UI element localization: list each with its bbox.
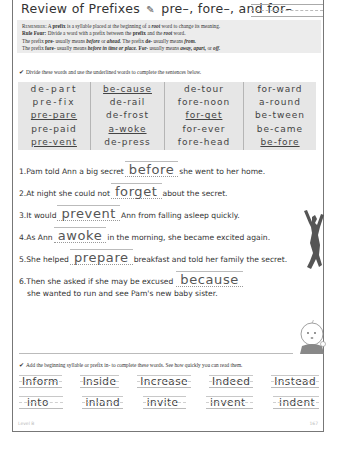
rules-box: Remember: A prefix is a syllable placed …	[17, 20, 321, 53]
table-word-underlined: a-woke	[108, 124, 146, 135]
sentence-6-continuation: she wanted to run and see Pam's new baby…	[19, 287, 319, 299]
in-words-row-2: into inland invite invent indent	[19, 395, 319, 415]
in-word[interactable]: Indeed	[209, 374, 253, 391]
in-word[interactable]: Inform	[19, 374, 62, 391]
table-word-underlined: be-fore	[260, 137, 299, 148]
table-word: de-frost	[106, 110, 149, 121]
table-word: de-press	[104, 137, 151, 148]
word-column-1: de-part pre-fix pre-pare pre-paid pre-ve…	[18, 82, 91, 150]
in-word[interactable]: inland	[82, 395, 123, 412]
check-icon: ✔	[19, 69, 24, 75]
title-row: Review of Prefixes ✎ pre–, fore–, and fo…	[21, 1, 321, 19]
table-word-underlined: pre-pare	[31, 110, 77, 121]
table-word: de-rail	[110, 97, 146, 108]
answer-blank[interactable]: because	[176, 274, 243, 287]
table-word: fore-head	[178, 137, 230, 148]
rule-four: Rule Four: Divide a word with a prefix b…	[22, 30, 316, 37]
table-word-underlined: for-get	[186, 110, 223, 121]
in-prefix-words: Inform Inside Increase Indeed Instead in…	[19, 374, 319, 416]
word-column-2: be-cause de-rail de-frost a-woke de-pres…	[91, 82, 165, 150]
page-number: 167	[309, 421, 318, 426]
table-word-underlined: pre-vent	[31, 137, 77, 148]
in-words-row-1: Inform Inside Increase Indeed Instead	[19, 374, 319, 394]
check-icon: ✔	[19, 362, 24, 368]
name-writing-lines[interactable]	[251, 4, 323, 17]
answer-blank[interactable]: before	[125, 164, 178, 177]
sentence-2: 2. At night she could not forget about t…	[19, 177, 319, 199]
table-word: fore-noon	[178, 97, 230, 108]
baby-icon	[297, 320, 327, 356]
in-word[interactable]: Instead	[271, 374, 319, 391]
table-word: pre-fix	[33, 97, 76, 108]
sentences-section: 1. Pam told Ann a big secret before she …	[19, 155, 319, 299]
answer-blank[interactable]: awoke	[54, 230, 107, 243]
word-column-4: for-ward a-round be-tween be-came be-for…	[244, 82, 316, 150]
level-label: Level B	[18, 421, 34, 426]
rule-fore-for: The prefix fore- usually means before in…	[22, 45, 316, 52]
table-word: be-tween	[255, 110, 305, 121]
in-word[interactable]: indent	[273, 395, 319, 412]
in-word[interactable]: Inside	[80, 374, 120, 391]
sentence-4: 4. As Ann awoke in the morning, she beca…	[19, 221, 319, 243]
in-word[interactable]: into	[19, 395, 63, 412]
in-word[interactable]: invite	[143, 395, 187, 412]
in-word[interactable]: Increase	[137, 374, 191, 391]
section-divider	[19, 353, 293, 354]
table-word: de-tour	[184, 84, 224, 95]
table-word: de-part	[31, 84, 78, 95]
word-column-3: de-tour fore-noon for-get for-ever fore-…	[165, 82, 244, 150]
table-word: pre-paid	[31, 124, 76, 135]
pencil-icon: ✎	[146, 4, 155, 15]
sentence-5: 5. She helped prepare breakfast and told…	[19, 243, 319, 265]
title-text: Review of Prefixes	[21, 1, 140, 16]
worksheet-page: Review of Prefixes ✎ pre–, fore–, and fo…	[12, 0, 324, 432]
table-word: for-ward	[257, 84, 302, 95]
jumping-girl-icon	[302, 209, 326, 275]
word-division-table: de-part pre-fix pre-pare pre-paid pre-ve…	[18, 82, 316, 150]
table-word: a-round	[259, 97, 301, 108]
answer-blank[interactable]: forget	[111, 186, 162, 199]
answer-blank[interactable]: prepare	[70, 252, 133, 265]
rule-remember: Remember: A prefix is a syllable placed …	[22, 23, 316, 30]
sentence-3: 3. It would prevent Ann from falling asl…	[19, 199, 319, 221]
sentence-6: 6. Then she asked if she may be excused …	[19, 265, 319, 287]
answer-blank[interactable]: prevent	[57, 208, 120, 221]
table-word-underlined: be-cause	[103, 84, 152, 95]
rule-pre-de: The prefix pre- usually means before or …	[22, 38, 316, 45]
instruction-add-prefix: ✔Add the beginning syllable or prefix in…	[19, 361, 242, 368]
sentence-1: 1. Pam told Ann a big secret before she …	[19, 155, 319, 177]
instruction-divide: ✔Divide these words and use the underlin…	[19, 68, 201, 75]
in-word[interactable]: invent	[206, 395, 253, 412]
table-word: be-came	[257, 124, 303, 135]
table-word: for-ever	[182, 124, 225, 135]
